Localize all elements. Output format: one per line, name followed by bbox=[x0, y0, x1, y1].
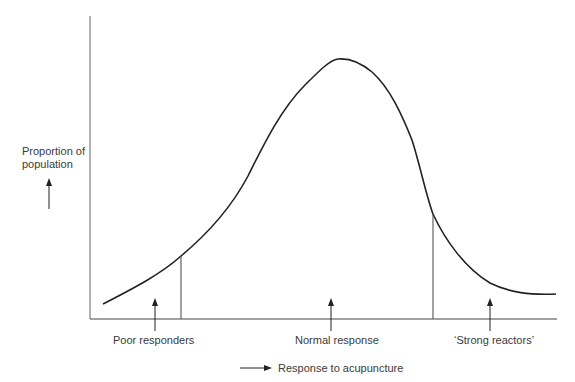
y-axis-label-line2: population bbox=[22, 158, 73, 170]
region-label-strong-reactors: ‘Strong reactors’ bbox=[454, 334, 534, 346]
diagram-canvas bbox=[0, 0, 575, 382]
y-axis-label-line1: Proportion of bbox=[22, 145, 85, 157]
x-axis-label: Response to acupuncture bbox=[278, 362, 403, 374]
distribution-curve bbox=[103, 59, 556, 304]
region-label-poor-responders: Poor responders bbox=[113, 334, 194, 346]
region-label-normal-response: Normal response bbox=[295, 334, 379, 346]
